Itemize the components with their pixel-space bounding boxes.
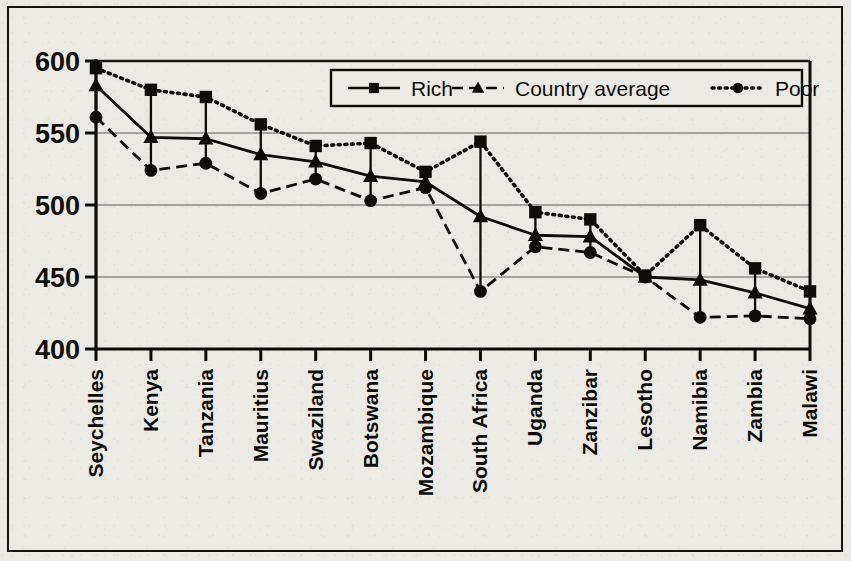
x-tick-label: Botswana (359, 369, 382, 469)
square-marker (145, 84, 157, 96)
circle-marker (584, 246, 597, 259)
circle-marker (309, 173, 322, 186)
square-marker (309, 140, 321, 152)
square-marker (529, 206, 541, 218)
circle-marker (254, 187, 267, 200)
circle-marker (529, 240, 542, 253)
series-markers-country-average (88, 77, 817, 314)
x-tick-label: Lesotho (633, 369, 656, 451)
square-marker (255, 118, 267, 130)
square-marker (749, 262, 761, 274)
x-tick-label: Uganda (523, 369, 546, 446)
x-tick-label: Namibia (688, 369, 711, 451)
legend-label: Poor (775, 77, 819, 100)
triangle-marker (88, 77, 103, 91)
x-tick-label: Seychelles (84, 369, 107, 478)
x-tick-label: South Africa (468, 369, 491, 493)
triangle-marker (473, 209, 488, 223)
square-marker (804, 285, 816, 297)
chart-page: 400450500550600SeychellesKenyaTanzaniaMa… (0, 0, 851, 561)
x-tick-label: Malawi (798, 369, 821, 438)
circle-marker (419, 181, 432, 194)
circle-marker (694, 311, 707, 324)
square-marker (364, 137, 376, 149)
circle-marker (474, 285, 487, 298)
y-tick-label: 400 (35, 335, 80, 365)
circle-marker (749, 309, 762, 322)
x-tick-label: Zambia (743, 369, 766, 443)
x-tick-label: Swaziland (304, 369, 327, 471)
series-markers-poor (90, 111, 817, 325)
x-tick-label: Zanzibar (578, 369, 601, 455)
circle-marker (639, 271, 652, 284)
series-line-poor (96, 117, 810, 319)
circle-marker (90, 111, 103, 124)
circle-marker (804, 312, 817, 325)
square-marker (584, 213, 596, 225)
x-tick-label: Mozambique (414, 369, 437, 496)
y-tick-label: 500 (35, 191, 80, 221)
circle-marker (199, 157, 212, 170)
x-tick-label: Kenya (139, 369, 162, 432)
line-chart: 400450500550600SeychellesKenyaTanzaniaMa… (0, 0, 851, 561)
square-marker (90, 62, 102, 74)
circle-marker (364, 194, 377, 207)
circle-marker (145, 164, 158, 177)
x-tick-label: Mauritius (249, 369, 272, 462)
y-tick-label: 450 (35, 263, 80, 293)
circle-marker (733, 83, 743, 93)
legend-label: Rich (411, 77, 453, 100)
y-tick-label: 550 (35, 119, 80, 149)
y-tick-label: 600 (35, 47, 80, 77)
x-tick-label: Tanzania (194, 369, 217, 458)
square-marker (694, 219, 706, 231)
square-marker (369, 83, 379, 93)
legend-label: Country average (515, 77, 670, 100)
square-marker (200, 91, 212, 103)
series-line-country-average (96, 85, 810, 308)
square-marker (474, 135, 486, 147)
